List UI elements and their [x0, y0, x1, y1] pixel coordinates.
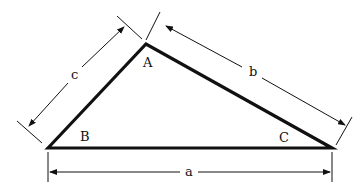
side-label-a: a — [185, 164, 193, 179]
triangle-diagram: A B C a b c — [0, 0, 362, 191]
triangle — [48, 44, 332, 148]
side-label-c: c — [71, 67, 78, 82]
vertex-label-b: B — [80, 129, 90, 144]
triangle-svg: A B C a b c — [0, 0, 362, 191]
dimension-c — [17, 16, 142, 143]
side-label-b: b — [249, 64, 257, 79]
vertex-label-a: A — [142, 55, 153, 70]
vertex-label-c: C — [279, 130, 289, 145]
